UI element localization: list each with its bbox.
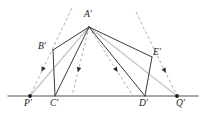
dashed-ray-A-to-D-arrowhead-icon xyxy=(113,66,118,71)
vertex-label-Q: Q′ xyxy=(176,99,185,109)
vertex-label-A: A′ xyxy=(84,10,92,20)
dashed-ray-A-to-C-arrowhead-icon xyxy=(77,67,81,72)
vertex-label-B: B′ xyxy=(38,42,46,52)
vertex-label-E: E′ xyxy=(153,48,161,58)
segment-A-P-light xyxy=(30,27,89,96)
dashed-ray-through-E-arrowhead-icon xyxy=(162,68,166,74)
vertex-label-D: D′ xyxy=(139,99,148,109)
geometry-figure: A′B′E′P′C′D′Q′ xyxy=(0,0,206,124)
vertex-label-P: P′ xyxy=(24,99,32,109)
segment-A-D xyxy=(89,27,145,96)
vertex-label-C: C′ xyxy=(50,99,58,109)
segment-B-C xyxy=(53,50,55,96)
segment-A-Q-light xyxy=(89,27,177,96)
dashed-ray-through-B xyxy=(30,8,72,96)
